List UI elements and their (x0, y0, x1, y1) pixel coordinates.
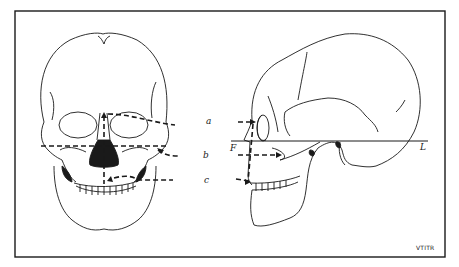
figure-frame (15, 11, 445, 257)
label-f: F (230, 143, 236, 153)
label-a: a (206, 116, 211, 126)
label-c: c (204, 175, 209, 185)
frontal-skull (41, 33, 169, 230)
credit-mark: VTITR (416, 244, 434, 251)
label-l: L (420, 142, 426, 152)
label-b: b (203, 150, 209, 160)
lateral-skull (244, 34, 420, 226)
skull-diagram (0, 0, 459, 267)
